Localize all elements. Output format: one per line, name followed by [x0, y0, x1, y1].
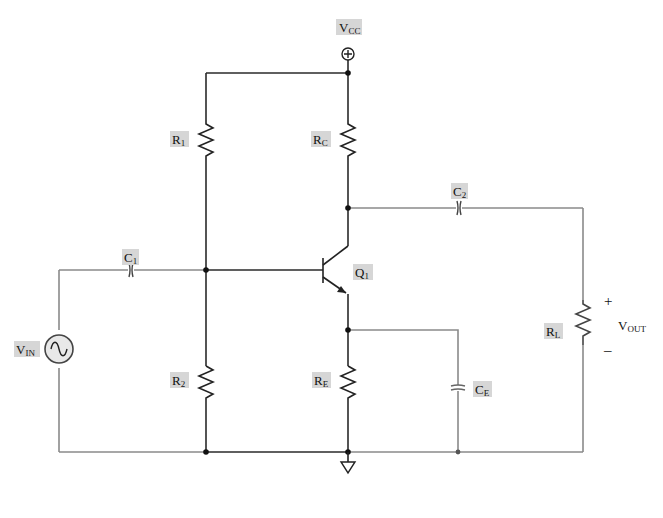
output-minus-sign: –	[603, 342, 612, 358]
label-vout: VOUT	[618, 318, 646, 334]
junction-ground-ce	[456, 450, 461, 455]
capacitor-ce-icon	[451, 385, 465, 390]
label-q1: Q1	[353, 264, 373, 281]
resistor-rc-icon	[341, 120, 355, 160]
label-r2: R2	[170, 372, 189, 389]
junction-ground-left	[203, 449, 209, 455]
label-re: RE	[312, 372, 331, 389]
svg-text:VOUT: VOUT	[618, 318, 646, 334]
wire-ce-top	[348, 330, 458, 385]
junction-vcc	[345, 70, 351, 76]
label-ce: CE	[473, 381, 492, 398]
capacitor-c2-icon	[457, 201, 461, 215]
junction-emitter	[345, 327, 351, 333]
resistor-r2-icon	[199, 366, 213, 400]
junction-collector	[345, 205, 351, 211]
circuit-schematic: VCC R1 RC R2 RE RL C1 C2	[0, 0, 663, 518]
label-vin: VIN	[14, 341, 40, 358]
resistor-rl-icon	[576, 300, 590, 345]
output-plus-sign: +	[604, 293, 612, 309]
transistor-q1-icon	[323, 246, 348, 293]
label-c2: C2	[451, 183, 468, 200]
label-vcc: VCC	[336, 19, 362, 36]
vcc-terminal-icon	[342, 48, 354, 60]
label-c1: C1	[122, 249, 139, 266]
ground-icon	[341, 452, 355, 473]
resistor-re-icon	[341, 366, 355, 400]
resistor-r1-icon	[199, 120, 213, 160]
ac-source-vin-icon	[45, 335, 73, 363]
label-r1: R1	[170, 131, 189, 148]
junction-base	[203, 267, 209, 273]
label-rc: RC	[311, 131, 331, 148]
label-rl: RL	[544, 323, 563, 340]
